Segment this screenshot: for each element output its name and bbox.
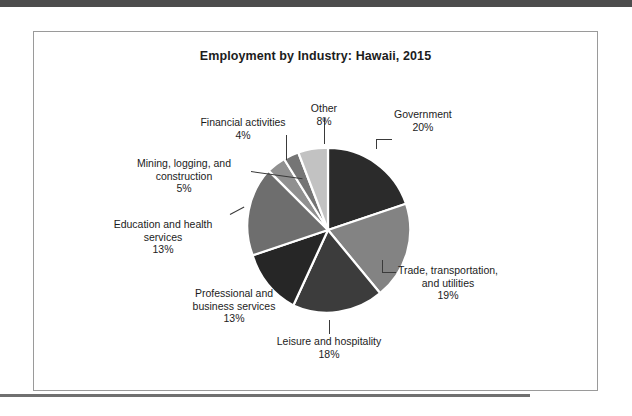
pie-label-mining-name-line2: construction [116,170,252,183]
pie-label-financial-name: Financial activities [200,116,285,128]
pie-label-trade-value: 19% [398,289,498,302]
pie-label-mining: Mining, logging, and construction 5% [116,157,252,195]
pie-label-professional-name-line2: business services [154,300,314,313]
leader-line-government [376,139,392,140]
chart-title: Employment by Industry: Hawaii, 2015 [34,49,597,63]
pie-label-trade-name-line1: Trade, transportation, [398,264,498,276]
pie-label-professional: Professional and business services 13% [154,287,314,325]
pie-label-government: Government 20% [394,108,452,133]
pie-label-education-name-line2: services [96,231,230,244]
pie-label-leisure: Leisure and hospitality 18% [250,335,408,360]
pie-label-trade-name-line2: and utilities [398,277,498,290]
leader-line-trade [382,272,396,273]
leader-line-education [230,207,245,215]
leader-line-trade-stem [382,260,383,273]
pie-label-mining-name-line1: Mining, logging, and [137,157,231,169]
chart-frame: Employment by Industry: Hawaii, 2015 [33,31,598,391]
pie-label-leisure-value: 18% [250,348,408,361]
scan-artifact-top-bar [0,0,632,7]
pie-label-education-value: 13% [96,243,230,256]
leader-line-government-stem [376,139,377,149]
pie-label-trade: Trade, transportation, and utilities 19% [398,264,498,302]
pie-label-other: Other 8% [296,102,352,127]
pie-label-government-name: Government [394,108,452,120]
pie-label-financial-value: 4% [196,129,290,142]
pie-label-education-name-line1: Education and health [114,218,213,230]
pie-label-financial: Financial activities 4% [196,116,290,141]
leader-line-leisure [329,320,330,334]
pie-label-other-value: 8% [296,115,352,128]
pie-label-mining-value: 5% [116,182,252,195]
pie-label-professional-name-line1: Professional and [195,287,273,299]
scan-artifact-bottom-bar [0,394,530,397]
pie-label-education: Education and health services 13% [96,218,230,256]
pie-label-professional-value: 13% [154,312,314,325]
pie-label-other-name: Other [311,102,337,114]
pie-label-leisure-name: Leisure and hospitality [277,335,381,347]
pie-label-government-value: 20% [394,121,452,134]
